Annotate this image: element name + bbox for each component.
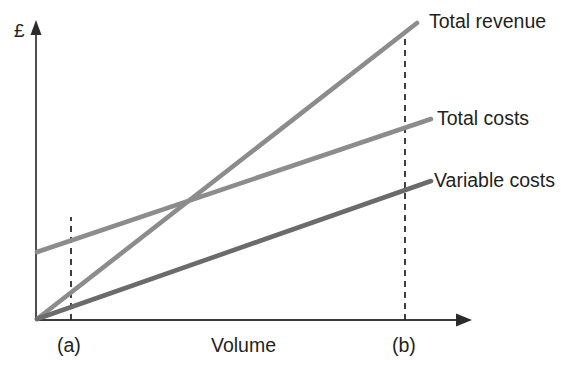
x-axis-label: Volume: [211, 336, 276, 356]
series-line-total-costs: [37, 119, 431, 252]
x-tick-label-a: (a): [57, 336, 81, 356]
y-axis-label: £: [14, 21, 25, 40]
series-label-variable-costs: Variable costs: [434, 171, 555, 191]
series-line-total-revenue: [37, 23, 417, 319]
series-label-total-revenue: Total revenue: [429, 12, 546, 32]
x-axis: [36, 314, 472, 327]
x-tick-label-b: (b): [392, 336, 416, 356]
y-axis-arrow-icon: [31, 20, 42, 35]
x-axis-arrow-icon: [456, 314, 472, 327]
y-axis: [31, 20, 42, 320]
series-line-variable-costs: [37, 181, 431, 319]
series-label-total-costs: Total costs: [437, 109, 529, 129]
break-even-chart: £ Total revenue Total costs Variable cos…: [0, 0, 569, 377]
